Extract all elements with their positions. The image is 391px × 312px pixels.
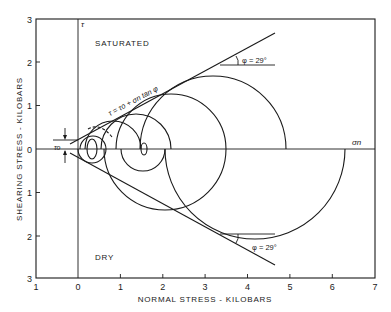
svg-text:2: 2 [27,58,32,68]
svg-text:3: 3 [27,274,32,284]
svg-text:φ = 29°: φ = 29° [242,56,267,65]
y-axis-title: SHEARING STRESS - KILOBARS [15,77,24,221]
dry-label: DRY [95,253,114,262]
x-ticks [120,274,332,278]
tau-symbol: τ [81,20,85,29]
dry-envelope [70,153,275,265]
svg-text:6: 6 [330,282,335,292]
dry-mohr-circles [78,149,345,239]
sigma-n-symbol: σn [352,138,362,147]
svg-text:3: 3 [203,282,208,292]
x-tick-labels: 1 0 1 2 3 4 5 6 7 [33,282,377,292]
mohr-diagram: 1 0 1 2 3 4 5 6 7 3 2 1 0 1 2 3 NORMAL S… [0,0,391,312]
svg-text:2: 2 [27,232,32,242]
y-tick-labels: 3 2 1 0 1 2 3 [27,15,32,284]
svg-text:τo: τo [54,144,61,151]
envelope-formula: τ = τo + σn tan φ [107,84,160,118]
svg-text:1: 1 [27,188,32,198]
svg-text:3: 3 [27,15,32,25]
svg-text:4: 4 [245,282,250,292]
lower-angle-marker: φ = 29° [220,234,277,252]
tau0-marker: τo [53,128,78,163]
svg-text:7: 7 [372,282,377,292]
upper-angle-marker: φ = 29° [220,56,275,65]
svg-text:1: 1 [27,101,32,111]
svg-text:5: 5 [287,282,292,292]
svg-text:1: 1 [33,282,38,292]
svg-text:1: 1 [118,282,123,292]
saturated-label: SATURATED [95,39,149,48]
x-axis-title: NORMAL STRESS - KILOBARS [138,295,273,304]
svg-text:0: 0 [75,282,80,292]
svg-text:φ = 29°: φ = 29° [252,243,277,252]
svg-text:2: 2 [160,282,165,292]
svg-text:0: 0 [27,145,32,155]
